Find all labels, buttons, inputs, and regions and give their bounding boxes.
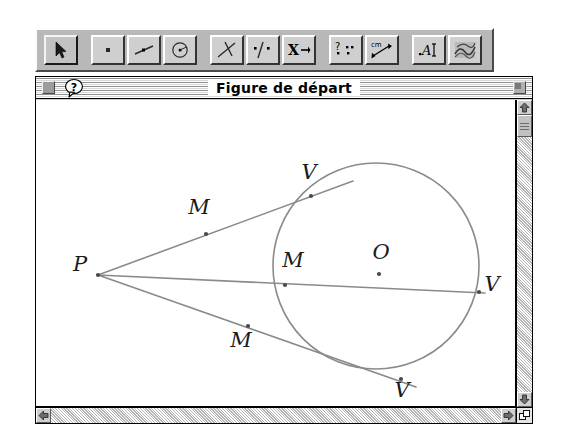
measure-tool[interactable]: cm	[365, 35, 399, 65]
drawing-canvas[interactable]: PMVMOVMV	[36, 100, 516, 407]
figure-point-M1[interactable]	[204, 232, 208, 236]
vertical-scrollbar[interactable]	[516, 100, 532, 407]
figure-point-V1[interactable]	[309, 194, 313, 198]
scroll-left-arrow-icon[interactable]	[36, 408, 51, 423]
cm-ruler-arrow-icon: cm	[370, 40, 394, 60]
help-question-mark: ?	[71, 80, 77, 93]
tool-group-annotation: A	[412, 35, 484, 65]
close-box[interactable]	[42, 81, 55, 94]
zoom-box[interactable]	[513, 81, 526, 94]
x-arrow-icon: X	[287, 42, 311, 58]
vertical-scroll-track[interactable]	[517, 137, 532, 392]
figure-label-M2: M	[281, 248, 304, 272]
figure-label-V1: V	[301, 160, 318, 184]
arrow-cursor-icon	[53, 40, 69, 60]
a-text-cursor-icon: A	[418, 41, 440, 59]
figure-label-M3: M	[229, 328, 252, 352]
circle-with-center-icon	[170, 40, 190, 60]
figure-point-M2[interactable]	[283, 283, 287, 287]
scroll-right-arrow-icon[interactable]	[501, 408, 516, 423]
segment-icon	[133, 42, 155, 58]
figure-line-middle-ray[interactable]	[98, 275, 485, 293]
svg-text:X: X	[288, 42, 299, 58]
parallel-point-line-icon	[252, 40, 274, 60]
scroll-down-arrow-icon[interactable]	[517, 392, 532, 407]
figure-label-V3: V	[394, 378, 411, 402]
figure-window: ? Figure de départ PMVMOVMV	[35, 76, 533, 424]
figure-point-P[interactable]	[96, 273, 100, 277]
tool-group-selection	[44, 35, 80, 65]
help-balloon-icon[interactable]: ?	[64, 78, 84, 98]
figure-point-O[interactable]	[377, 272, 381, 276]
figure-point-V2[interactable]	[477, 290, 481, 294]
scroll-up-arrow-icon[interactable]	[517, 100, 532, 115]
perpendicular-lines-icon	[216, 40, 238, 60]
segment-line-tool[interactable]	[127, 35, 161, 65]
tool-group-constructions: X	[210, 35, 318, 65]
figure-line-lower-ray[interactable]	[98, 275, 416, 387]
transform-tool[interactable]: X	[282, 35, 316, 65]
tool-group-primitives	[91, 35, 199, 65]
scribble-fill-icon	[454, 41, 476, 59]
circle-tool[interactable]	[163, 35, 197, 65]
geometry-figure: PMVMOVMV	[36, 100, 516, 407]
text-tool[interactable]: A	[412, 35, 446, 65]
horizontal-scrollbar[interactable]	[36, 407, 516, 423]
horizontal-scroll-track[interactable]	[51, 408, 501, 423]
window-title: Figure de départ	[36, 78, 532, 98]
window-titlebar[interactable]: ? Figure de départ	[36, 77, 532, 99]
svg-text:cm: cm	[371, 41, 382, 49]
fill-display-tool[interactable]	[448, 35, 482, 65]
size-box[interactable]	[516, 407, 532, 423]
figure-label-V2: V	[484, 272, 501, 296]
parallel-tool[interactable]	[246, 35, 280, 65]
figure-circle[interactable]	[273, 163, 479, 369]
figure-line-upper-ray[interactable]	[98, 181, 353, 275]
query-tool[interactable]: ?	[329, 35, 363, 65]
figure-label-O: O	[372, 240, 389, 264]
point-tool[interactable]	[91, 35, 125, 65]
svg-text:A: A	[421, 43, 431, 58]
vertical-scroll-thumb[interactable]	[517, 115, 532, 137]
figure-label-M1: M	[187, 195, 210, 219]
perpendicular-tool[interactable]	[210, 35, 244, 65]
arrow-select-tool[interactable]	[44, 35, 78, 65]
tool-group-measure: ? cm	[329, 35, 401, 65]
figure-label-P: P	[72, 252, 88, 276]
svg-text:?: ?	[335, 41, 340, 52]
point-icon	[100, 42, 116, 58]
toolbar: X ? cm	[35, 28, 494, 72]
question-points-icon: ?	[334, 41, 358, 59]
